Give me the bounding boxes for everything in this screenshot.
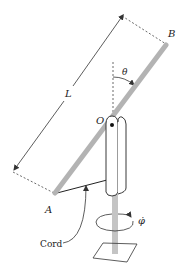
rotating-rod-diagram: B L θ O A Cord φ̇ [0,0,184,279]
label-phi-dot: φ̇ [138,215,145,226]
support-post [106,116,118,196]
support-post-side [118,117,126,194]
length-dimension-upper [73,18,121,86]
theta-arc-icon [113,77,134,85]
pivot-pin [110,123,114,127]
extension-line-a [13,172,54,193]
shaft [112,194,118,254]
length-dimension-lower [14,101,64,170]
extension-line-b [122,16,166,44]
label-o: O [96,115,104,126]
label-b: B [167,28,175,39]
label-l: L [64,88,72,99]
label-a: A [44,204,52,215]
cord-callout-arrow [63,186,86,243]
label-theta: θ [122,67,128,77]
label-cord: Cord [40,239,63,249]
